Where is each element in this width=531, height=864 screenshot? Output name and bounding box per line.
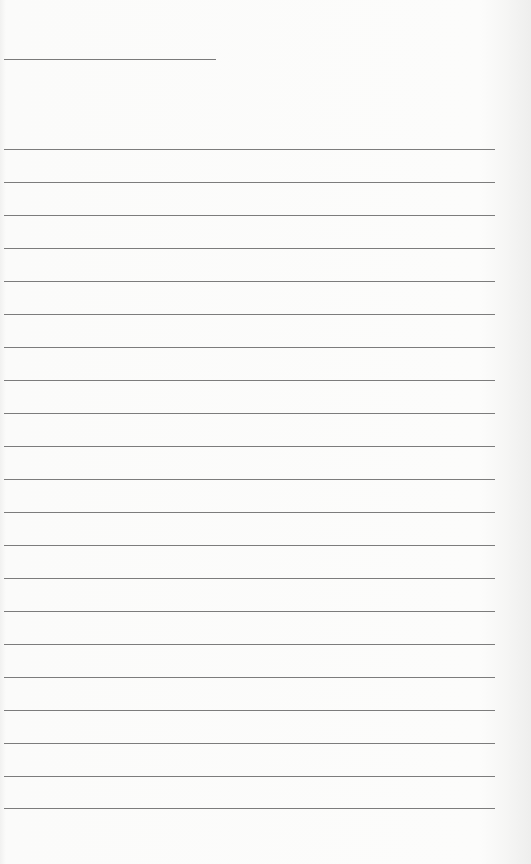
ruled-line xyxy=(4,710,495,711)
ruled-line xyxy=(4,808,495,809)
ruled-line xyxy=(4,611,495,612)
header-line xyxy=(4,59,216,60)
ruled-line xyxy=(4,347,495,348)
ruled-line xyxy=(4,281,495,282)
ruled-line xyxy=(4,149,495,150)
ruled-line xyxy=(4,776,495,777)
ruled-line xyxy=(4,314,495,315)
ruled-line xyxy=(4,248,495,249)
ruled-line xyxy=(4,644,495,645)
ruled-line xyxy=(4,446,495,447)
ruled-line xyxy=(4,182,495,183)
ruled-line xyxy=(4,512,495,513)
ruled-line xyxy=(4,545,495,546)
ruled-line xyxy=(4,380,495,381)
ruled-line xyxy=(4,677,495,678)
ruled-line xyxy=(4,743,495,744)
ruled-line xyxy=(4,413,495,414)
lined-paper-page xyxy=(0,0,531,864)
ruled-line xyxy=(4,578,495,579)
ruled-line xyxy=(4,479,495,480)
ruled-line xyxy=(4,215,495,216)
